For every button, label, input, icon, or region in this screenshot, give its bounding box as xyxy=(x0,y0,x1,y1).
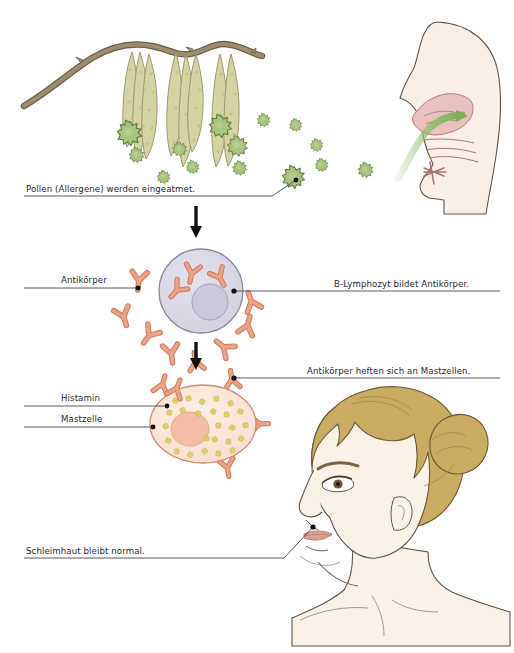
label-mucosa-normal: Schleimhaut bleibt normal. xyxy=(26,546,145,557)
hazel-branch-group xyxy=(24,44,262,167)
leader-line-antibody xyxy=(24,286,140,291)
label-histamin: Histamin xyxy=(61,393,100,404)
woman-portrait xyxy=(292,387,510,646)
leader-line-mastzelle xyxy=(24,425,155,430)
flow-arrow-1 xyxy=(190,206,202,238)
label-pollen-inhaled: Pollen (Allergene) werden eingeatmet. xyxy=(26,184,195,195)
head-profile-nasal xyxy=(398,22,501,214)
label-antibody-attach: Antikörper heften sich an Mastzellen. xyxy=(307,366,470,377)
mast-cell-group xyxy=(150,370,269,478)
figure-canvas: Pollen (Allergene) werden eingeatmet. An… xyxy=(0,0,514,653)
leader-line-histamin xyxy=(24,404,169,409)
label-antibody: Antikörper xyxy=(61,275,107,286)
pollen-grain-labeled xyxy=(282,165,304,188)
label-b-lymphocyte: B-Lymphozyt bildet Antikörper. xyxy=(334,279,469,290)
b-lymphocyte-cell xyxy=(159,249,243,333)
label-mastzelle: Mastzelle xyxy=(61,414,102,425)
